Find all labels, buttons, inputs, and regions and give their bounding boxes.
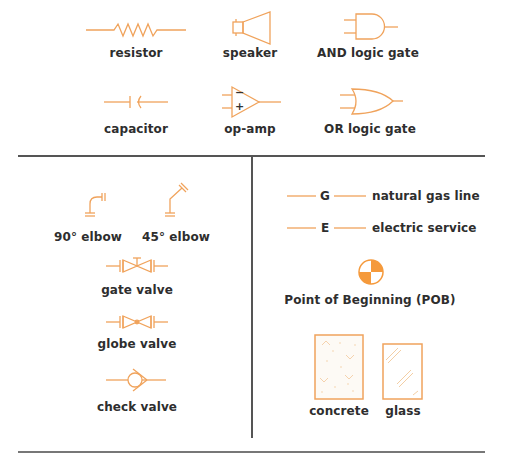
glass-hatch-icon <box>0 0 506 455</box>
glass-label: glass <box>385 404 421 418</box>
